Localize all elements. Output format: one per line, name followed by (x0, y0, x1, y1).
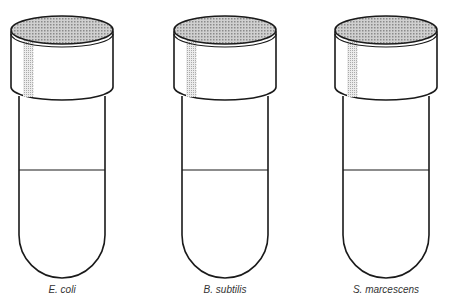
test-tube-s-marcescens (335, 16, 437, 278)
label-b-subtilis: B. subtilis (165, 284, 285, 295)
diagram-canvas (0, 0, 449, 306)
test-tube-e-coli (11, 16, 113, 278)
label-e-coli: E. coli (2, 284, 122, 295)
label-s-marcescens: S. marcescens (326, 284, 446, 295)
test-tube-b-subtilis (174, 16, 276, 278)
